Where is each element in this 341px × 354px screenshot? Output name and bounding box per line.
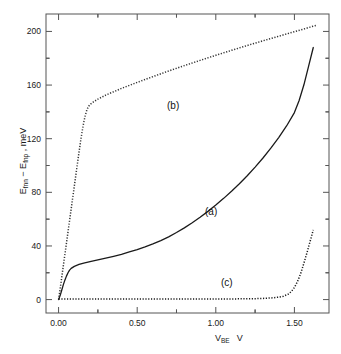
y-axis-unit: , meV [18, 128, 28, 154]
x-tick-label: 0.00 [39, 318, 79, 328]
x-tick-label: 1.50 [274, 318, 314, 328]
curve-label-b: (b) [167, 100, 179, 111]
x-axis-sub: BE [221, 337, 230, 344]
y-tick-label: 160 [14, 80, 41, 90]
x-axis-unit: V [237, 333, 243, 343]
x-axis-title: VBEV [215, 333, 243, 343]
y-axis-e1-sub: fnn [22, 179, 29, 188]
series-b [59, 25, 317, 299]
axes-frame [46, 14, 329, 313]
y-axis-title: Efnn − Efnp , meV [12, 96, 30, 226]
curve-label-a: (a) [205, 206, 217, 217]
y-tick-label: 40 [14, 241, 41, 251]
y-axis-minus: − [18, 169, 28, 179]
curve-label-c: (c) [221, 277, 233, 288]
y-tick-label: 0 [14, 295, 41, 305]
axis-ticks [46, 14, 329, 313]
plot-canvas [0, 0, 341, 354]
y-axis-e2-sub: fnp [22, 154, 29, 163]
y-axis-e1: E [18, 188, 28, 194]
series-a [59, 48, 314, 300]
series-c [59, 230, 314, 299]
x-tick-label: 1.00 [196, 318, 236, 328]
figure-container: 0.000.501.001.50 04080120160200 (a)(b)(c… [0, 0, 341, 354]
data-series-group [59, 25, 317, 299]
y-tick-label: 200 [14, 26, 41, 36]
y-axis-e2: E [18, 163, 28, 169]
x-tick-label: 0.50 [117, 318, 157, 328]
